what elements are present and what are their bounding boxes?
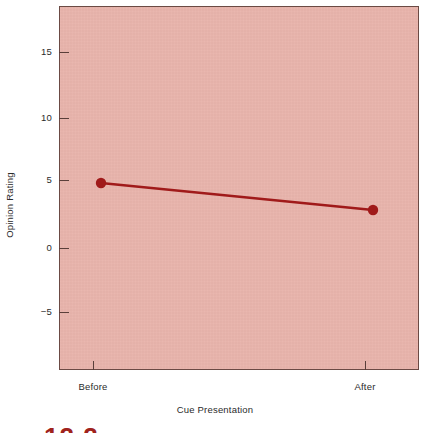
x-axis-title: Cue Presentation (0, 404, 430, 415)
data-point-after (368, 205, 378, 215)
figure-container: 15 10 5 0 −5 Before After Opinion Rating… (0, 0, 430, 433)
figure-number: 12.2 (44, 424, 99, 433)
data-point-before (96, 178, 106, 188)
data-layer (0, 0, 430, 433)
series-line-opinion-rating (101, 183, 373, 210)
y-axis-title: Opinion Rating (4, 172, 15, 238)
